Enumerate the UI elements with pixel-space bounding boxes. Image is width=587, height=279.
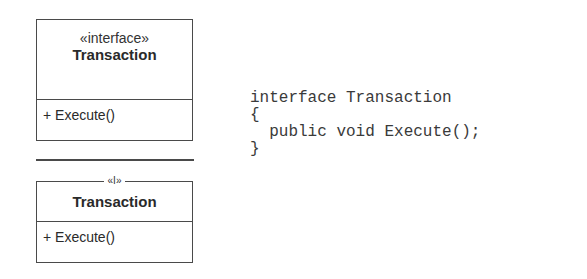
code-line: { [250, 107, 480, 124]
uml-class-interface-full: «interface» Transaction + Execute() [36, 19, 193, 141]
uml-class-interface-abbrev: «I» Transaction + Execute() [36, 181, 193, 263]
class-name: Transaction [37, 193, 192, 211]
code-line: interface Transaction [250, 90, 480, 107]
border-segment-left [36, 181, 104, 182]
code-listing: interface Transaction{ public void Execu… [250, 90, 480, 158]
operations-compartment: + Execute() [37, 100, 192, 123]
stereotype-label: «interface» [37, 30, 192, 46]
name-compartment: Transaction [37, 181, 192, 222]
border-segment-right [125, 181, 193, 182]
code-line: } [250, 141, 480, 158]
operation-execute: + Execute() [43, 229, 192, 245]
name-compartment: «interface» Transaction [37, 20, 192, 100]
class-name: Transaction [37, 46, 192, 64]
operation-execute: + Execute() [43, 107, 192, 123]
code-line: public void Execute(); [250, 124, 480, 141]
interface-stereotype-mark: «I» [104, 176, 126, 186]
operations-compartment: + Execute() [37, 222, 192, 245]
divider-line [36, 159, 194, 161]
